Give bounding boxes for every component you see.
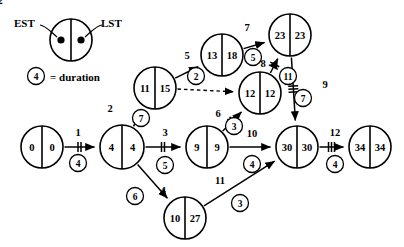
- edge-duration-value-e5: 2: [194, 72, 199, 82]
- network-diagram-svg: EST LST 4 = duration 0044111513189912122…: [0, 0, 404, 247]
- edge-duration-value-e4: 6: [133, 192, 138, 202]
- node-est-n4: 13: [207, 50, 218, 61]
- node-est-n2: 4: [109, 142, 115, 153]
- node-lst-n5: 9: [214, 142, 219, 153]
- legend-est-label: EST: [14, 17, 35, 29]
- node-n1[interactable]: 00: [21, 126, 63, 168]
- edge-activity-label-e5: 5: [184, 50, 189, 61]
- legend-group: EST LST 4 = duration: [14, 17, 122, 85]
- legend-lst-dot: [77, 36, 84, 43]
- edge-line-e6: [177, 89, 233, 92]
- edge-duration-e8: 11: [280, 68, 297, 85]
- edge-duration-value-e1: 4: [76, 159, 81, 169]
- node-est-n1: 0: [29, 142, 34, 153]
- node-n8[interactable]: 1027: [164, 197, 206, 239]
- node-est-n7: 23: [275, 30, 286, 41]
- edge-duration-value-e13: 4: [333, 160, 338, 170]
- node-lst-n8: 27: [190, 213, 201, 224]
- node-lst-n6: 12: [265, 88, 276, 99]
- node-lst-n10: 34: [375, 142, 386, 153]
- edge-duration-value-e8: 11: [284, 72, 293, 82]
- edge-e6: [177, 89, 233, 92]
- edge-activity-label-e8: 8: [260, 58, 265, 69]
- legend-duration-value: 4: [34, 72, 39, 82]
- edge-activity-label-e2: 2: [107, 103, 112, 114]
- edge-activity-label-e9: 6: [215, 108, 220, 119]
- network-diagram-canvas: EST LST 4 = duration 0044111513189912122…: [0, 0, 404, 247]
- edge-duration-e4: 6: [127, 188, 144, 205]
- edge-duration-e7: 5: [245, 49, 262, 66]
- edge-e3: [146, 142, 181, 152]
- edge-e10: [288, 57, 298, 120]
- node-n9[interactable]: 3030: [276, 126, 318, 168]
- legend-est-dot: [57, 36, 64, 43]
- node-n3[interactable]: 1115: [134, 67, 176, 109]
- node-n6[interactable]: 1212: [239, 72, 281, 114]
- edge-e8: [269, 59, 279, 73]
- node-est-n10: 34: [355, 142, 366, 153]
- node-n10[interactable]: 3434: [349, 126, 391, 168]
- node-est-n9: 30: [282, 142, 293, 153]
- edge-duration-value-e10: 7: [301, 94, 306, 104]
- edge-duration-e11: 4: [244, 156, 261, 173]
- node-n5[interactable]: 99: [186, 126, 228, 168]
- edge-duration-e9: 3: [226, 118, 243, 135]
- edge-duration-e2: 7: [133, 110, 150, 127]
- node-lst-n7: 23: [295, 30, 306, 41]
- node-lst-n2: 4: [130, 142, 136, 153]
- edge-tick-e10-1: [288, 89, 298, 90]
- edge-duration-e5: 2: [188, 68, 205, 85]
- node-lst-n4: 18: [227, 50, 238, 61]
- node-n2[interactable]: 44: [100, 125, 144, 169]
- node-est-n3: 11: [140, 83, 150, 94]
- edge-activity-label-e7: 7: [244, 22, 249, 33]
- edge-duration-value-e7: 5: [251, 53, 256, 63]
- edge-activity-label-e13: 12: [330, 127, 341, 138]
- node-est-n6: 12: [245, 88, 256, 99]
- edge-e13: [320, 142, 344, 152]
- node-n7[interactable]: 2323: [269, 14, 311, 56]
- edge-e1: [65, 142, 95, 152]
- edge-tick-e10-0: [288, 86, 298, 87]
- edge-duration-e12: 3: [232, 195, 249, 212]
- edge-line-e7: [244, 42, 265, 48]
- legend-lst-label: LST: [101, 17, 122, 29]
- edge-activity-label-e12: 11: [215, 175, 225, 186]
- legend-duration-text: = duration: [50, 71, 100, 83]
- node-lst-n1: 0: [49, 142, 54, 153]
- node-lst-n9: 30: [302, 142, 313, 153]
- edge-activity-label-e6: 2: [0, 0, 3, 6]
- edge-duration-e1: 4: [70, 155, 87, 172]
- edge-activity-label-e4: 4: [160, 185, 166, 196]
- edge-duration-e13: 4: [327, 156, 344, 173]
- edge-activity-label-e11: 10: [247, 128, 258, 139]
- node-est-n8: 10: [170, 213, 181, 224]
- node-lst-n3: 15: [160, 83, 171, 94]
- edge-activity-label-e3: 3: [162, 127, 167, 138]
- edge-duration-e3: 5: [157, 157, 174, 174]
- edge-duration-value-e9: 3: [232, 122, 237, 132]
- edge-duration-value-e11: 4: [250, 160, 255, 170]
- edge-activity-label-e1: 1: [75, 127, 80, 138]
- node-n4[interactable]: 1318: [201, 34, 243, 76]
- edge-duration-e10: 7: [295, 90, 312, 107]
- edge-duration-value-e2: 7: [139, 114, 144, 124]
- edge-duration-value-e3: 5: [163, 161, 168, 171]
- node-est-n5: 9: [194, 142, 199, 153]
- edge-e7: [244, 42, 265, 48]
- edge-activity-label-e10: 9: [322, 79, 327, 90]
- edge-duration-value-e12: 3: [238, 199, 243, 209]
